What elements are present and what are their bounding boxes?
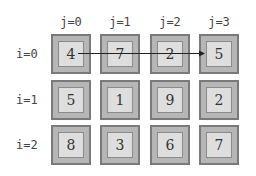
row-label-i1: i=1	[16, 80, 46, 120]
cell-value: 4	[58, 41, 84, 67]
matrix-cell-0-2: 2	[150, 34, 190, 74]
matrix-cell-0-1: 7	[100, 34, 140, 74]
cell-value: 6	[157, 132, 183, 158]
matrix-cell-1-2: 9	[150, 80, 190, 120]
matrix-cell-2-0: 8	[51, 125, 91, 165]
cell-value: 7	[206, 132, 232, 158]
row-label-i2: i=2	[16, 125, 46, 165]
cell-value: 3	[107, 132, 133, 158]
row-label-i0: i=0	[16, 34, 46, 74]
matrix-cell-0-0: 4	[51, 34, 91, 74]
matrix-cell-1-1: 1	[100, 80, 140, 120]
column-label-j1: j=1	[100, 15, 140, 29]
cell-value: 7	[107, 41, 133, 67]
cell-value: 8	[58, 132, 84, 158]
column-label-j3: j=3	[199, 15, 239, 29]
cell-value: 1	[107, 87, 133, 113]
column-label-j0: j=0	[51, 15, 91, 29]
matrix-cell-2-1: 3	[100, 125, 140, 165]
matrix-cell-0-3: 5	[199, 34, 239, 74]
column-label-j2: j=2	[150, 15, 190, 29]
matrix-cell-1-3: 2	[199, 80, 239, 120]
cell-value: 2	[206, 87, 232, 113]
cell-value: 5	[58, 87, 84, 113]
matrix-cell-2-2: 6	[150, 125, 190, 165]
cell-value: 9	[157, 87, 183, 113]
cell-value: 5	[206, 41, 232, 67]
matrix-cell-1-0: 5	[51, 80, 91, 120]
cell-value: 2	[157, 41, 183, 67]
matrix-cell-2-3: 7	[199, 125, 239, 165]
